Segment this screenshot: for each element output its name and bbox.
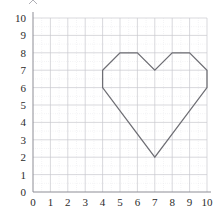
x-tick-label: 3 bbox=[82, 196, 88, 208]
y-tick-label: 9 bbox=[21, 29, 27, 41]
x-tick-label: 8 bbox=[169, 196, 175, 208]
y-tick-label: 7 bbox=[21, 64, 27, 76]
x-tick-label: 9 bbox=[187, 196, 193, 208]
y-tick-label: 5 bbox=[21, 99, 27, 111]
x-tick-label: 5 bbox=[117, 196, 123, 208]
y-tick-label: 1 bbox=[21, 169, 27, 181]
chart-container: 012345678910 012345678910 bbox=[0, 0, 213, 211]
y-tick-label: 3 bbox=[21, 134, 27, 146]
y-tick-label: 2 bbox=[21, 151, 27, 163]
x-tick-label: 4 bbox=[100, 196, 106, 208]
x-tick-label: 7 bbox=[152, 196, 158, 208]
heart-polygon-plot: 012345678910 012345678910 bbox=[0, 0, 213, 211]
y-tick-label: 6 bbox=[21, 82, 27, 94]
x-tick-label: 1 bbox=[48, 196, 54, 208]
y-tick-label: 4 bbox=[21, 116, 27, 128]
y-tick-label: 0 bbox=[21, 186, 27, 198]
y-tick-label: 8 bbox=[21, 47, 27, 59]
x-tick-label: 10 bbox=[202, 196, 214, 208]
y-tick-label: 10 bbox=[15, 12, 27, 24]
x-tick-label: 0 bbox=[30, 196, 36, 208]
x-tick-label: 2 bbox=[65, 196, 71, 208]
x-tick-label: 6 bbox=[135, 196, 141, 208]
